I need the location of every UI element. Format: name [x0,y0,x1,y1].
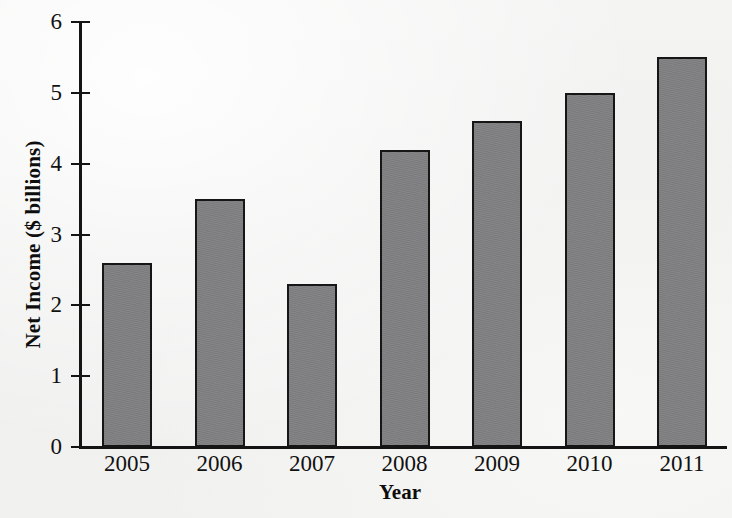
y-tick-label: 6 [22,10,62,33]
y-tick-mark [71,92,90,94]
bar-2011 [657,57,707,447]
y-tick-mark [71,21,90,23]
bar-2010 [565,93,615,447]
bar-2006 [195,199,245,447]
bar-2007 [287,284,337,447]
y-tick-label: 0 [22,435,62,458]
x-axis-title: Year [340,480,460,505]
y-tick-label: 2 [22,293,62,316]
bar-2009 [472,121,522,447]
bar-2005 [102,263,152,447]
y-tick-mark [71,304,90,306]
y-tick-mark [71,446,90,448]
y-tick-label: 1 [22,364,62,387]
bar-chart: Net Income ($ billions) 0123456 20052006… [0,0,732,518]
y-tick-mark [71,234,90,236]
y-tick-label: 4 [22,152,62,175]
y-tick-mark [71,375,90,377]
bar-2008 [380,150,430,448]
y-tick-mark [71,163,90,165]
x-tick-label-2011: 2011 [627,452,732,475]
y-axis-line [79,22,82,449]
y-tick-label: 3 [22,223,62,246]
y-tick-label: 5 [22,81,62,104]
